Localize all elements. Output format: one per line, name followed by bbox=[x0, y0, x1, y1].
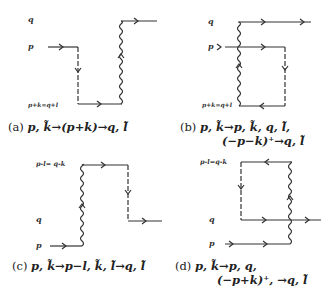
caption-text: p, k̃→p, k̃, q, l̃, bbox=[200, 120, 290, 134]
label-q: q bbox=[208, 16, 214, 26]
caption-d-line2: (−p+k)⁺, →q, l̃ bbox=[217, 273, 307, 287]
label-q: q bbox=[209, 214, 215, 224]
caption-c: (c) p, k̃→p−l, k̃, l̃→q, l̃ bbox=[12, 259, 145, 273]
label-p: p bbox=[208, 41, 214, 51]
caption-text: p, k̃→p−l, k̃, l̃→q, l̃ bbox=[31, 259, 145, 273]
caption-text: p, k̃→p, q, bbox=[195, 259, 257, 273]
caption-text: p, k̃→(p+k)→q, l̃ bbox=[28, 120, 128, 134]
label-momentum: p-l= q-k bbox=[36, 160, 65, 168]
panel-a: q p p+k=q+l (a) p, k̃→(p+k)→q, l̃ bbox=[0, 0, 167, 150]
label-momentum: p-l=q-k bbox=[200, 158, 227, 166]
caption-d: (d) p, k̃→p, q, bbox=[175, 259, 257, 273]
caption-tag: (b) bbox=[180, 120, 196, 134]
panel-b: q p p+k=q+l (b) p, k̃→p, k̃, q, l̃, (−p−… bbox=[165, 0, 335, 155]
caption-tag: (d) bbox=[175, 259, 191, 273]
panel-c: p-l= q-k q p (c) p, k̃→p−l, k̃, l̃→q, l̃ bbox=[0, 150, 170, 302]
label-momentum: p+k=q+l bbox=[28, 101, 58, 108]
label-momentum: p+k=q+l bbox=[202, 101, 232, 108]
caption-b-line2: (−p−k)⁺→q, l̃ bbox=[222, 134, 304, 148]
diagram-c bbox=[0, 150, 170, 302]
label-p: p bbox=[36, 240, 42, 250]
caption-b: (b) p, k̃→p, k̃, q, l̃, bbox=[180, 120, 290, 134]
label-p: p bbox=[209, 238, 215, 248]
caption-tag: (a) bbox=[8, 120, 24, 134]
label-q: q bbox=[36, 214, 42, 224]
label-p: p bbox=[28, 41, 34, 51]
caption-a: (a) p, k̃→(p+k)→q, l̃ bbox=[8, 120, 128, 134]
caption-tag: (c) bbox=[12, 259, 27, 273]
panel-d: p-l=q-k q p (d) p, k̃→p, q, (−p+k)⁺, →q,… bbox=[165, 150, 335, 302]
label-q: q bbox=[28, 14, 34, 24]
